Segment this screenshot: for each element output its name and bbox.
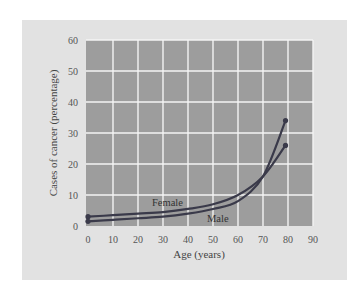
y-tick-label: 10 xyxy=(68,190,78,201)
x-tick-label: 0 xyxy=(86,234,91,245)
series-label-female: Female xyxy=(152,197,183,208)
x-tick-label: 30 xyxy=(158,234,168,245)
x-tick-label: 50 xyxy=(208,234,218,245)
y-tick-label: 60 xyxy=(68,35,78,46)
x-axis-label: Age (years) xyxy=(173,248,225,261)
x-tick-label: 80 xyxy=(283,234,293,245)
data-point xyxy=(85,214,90,219)
y-tick-label: 50 xyxy=(68,66,78,77)
y-tick-label: 0 xyxy=(73,221,78,232)
series-label-male: Male xyxy=(207,213,229,224)
x-tick-label: 60 xyxy=(233,234,243,245)
y-axis-label: Cases of cancer (percentage) xyxy=(47,69,60,196)
data-point xyxy=(283,143,288,148)
y-tick-label: 30 xyxy=(68,128,78,139)
x-tick-label: 20 xyxy=(133,234,143,245)
x-tick-label: 40 xyxy=(183,234,193,245)
data-point xyxy=(85,219,90,224)
x-tick-label: 70 xyxy=(258,234,268,245)
x-tick-label: 90 xyxy=(308,234,318,245)
data-point xyxy=(283,118,288,123)
x-axis-ticks: 0102030405060708090 xyxy=(86,234,319,245)
line-chart: 0102030405060 0102030405060708090 Female… xyxy=(0,0,361,298)
y-tick-label: 40 xyxy=(68,97,78,108)
y-axis-ticks: 0102030405060 xyxy=(68,35,78,232)
y-tick-label: 20 xyxy=(68,159,78,170)
x-tick-label: 10 xyxy=(108,234,118,245)
